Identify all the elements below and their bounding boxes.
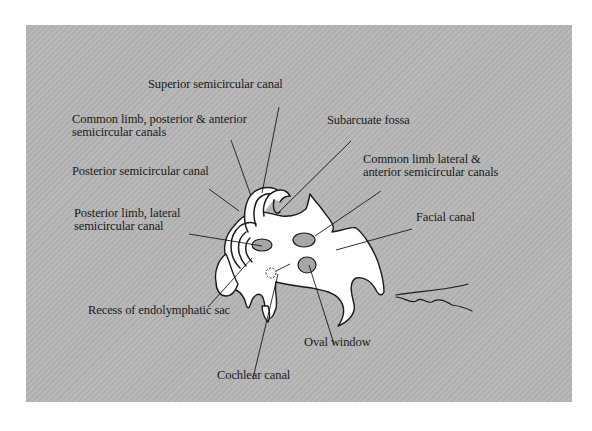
label-common-limb-posterior-anterior: Common limb, posterior & anteriorsemicir…: [72, 113, 247, 139]
label-text-line: Cochlear canal: [217, 369, 290, 382]
label-subarcuate-fossa: Subarcuate fossa: [327, 114, 410, 127]
oval-window-shape: [298, 257, 316, 273]
leader-superior-semicircular-canal: [262, 107, 279, 193]
label-text-line: semicircular canal: [74, 220, 180, 233]
label-text-line: Recess of endolymphatic sac: [88, 304, 230, 317]
label-cochlear-canal: Cochlear canal: [217, 369, 290, 382]
label-facial-canal: Facial canal: [416, 211, 475, 224]
label-oval-window: Oval window: [304, 336, 371, 349]
label-text-line: Oval window: [304, 336, 371, 349]
label-recess-endolymphatic-sac: Recess of endolymphatic sac: [88, 304, 230, 317]
label-posterior-limb-lateral: Posterior limb, lateralsemicircular cana…: [74, 207, 180, 233]
label-text-line: Posterior semicircular canal: [72, 165, 209, 178]
leader-posterior-semicircular-canal: [209, 189, 239, 211]
label-text-line: Facial canal: [416, 211, 475, 224]
anterior-common-limb-opening: [293, 233, 315, 247]
label-text-line: Superior semicircular canal: [148, 78, 283, 91]
label-text-line: anterior semicircular canals: [363, 166, 498, 179]
label-common-limb-lateral-anterior: Common limb lateral &anterior semicircul…: [363, 153, 498, 179]
leader-common-limb-posterior-anterior: [231, 140, 251, 196]
label-superior-semicircular-canal: Superior semicircular canal: [148, 78, 283, 91]
label-posterior-semicircular-canal: Posterior semicircular canal: [72, 165, 209, 178]
label-text-line: semicircular canals: [72, 126, 247, 139]
label-text-line: Subarcuate fossa: [327, 114, 410, 127]
wavy-line: [396, 284, 472, 311]
